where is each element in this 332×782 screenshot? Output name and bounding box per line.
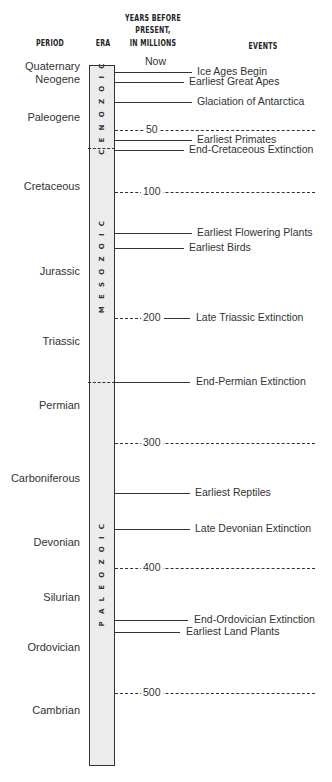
event-line [115,150,184,151]
era-separator [88,382,115,383]
period-label: Neogene [35,73,80,85]
event-label: Late Devonian Extinction [195,522,311,534]
tick-label: 400 [141,561,163,573]
tick-label: 300 [141,436,163,448]
era-separator [88,148,115,149]
event-label: Earliest Reptiles [195,486,271,498]
header-era: ERA [91,38,116,48]
tick-line [115,318,143,319]
header-years-line3: IN MILLIONS [124,38,181,48]
event-line [115,632,180,633]
event-label: End-Permian Extinction [196,375,306,387]
event-label: Earliest Land Plants [186,625,279,637]
period-label: Carboniferous [11,472,80,484]
event-line [115,102,192,103]
period-label: Cambrian [32,704,80,716]
header-period: PERIOD [34,38,67,48]
period-label: Ordovician [27,641,80,653]
tick-label: Now [143,55,168,67]
header-events: EVENTS [243,41,284,51]
era-label: P A L E O Z O I C [90,383,114,765]
tick-label: 200 [141,311,163,323]
period-label: Cretaceous [24,180,80,192]
header-years-line1: YEARS BEFORE [124,13,181,23]
event-line [115,382,190,383]
period-label: Devonian [34,536,80,548]
event-line [115,248,184,249]
era-label: M E S O Z O I C [90,149,114,383]
era-name: M E S O Z O I C [98,219,106,314]
event-line [115,72,192,73]
tick-label: 500 [141,686,163,698]
period-label: Jurassic [40,265,80,277]
event-line [164,318,190,319]
period-label: Silurian [43,591,80,603]
period-label: Quaternary [25,60,80,72]
tick-label: 50 [144,123,160,135]
period-label: Paleogene [27,111,80,123]
event-label: Late Triassic Extinction [196,311,303,323]
event-label: Earliest Great Apes [189,75,279,87]
event-label: End-Cretaceous Extinction [189,143,313,155]
event-label: Earliest Birds [189,241,251,253]
era-bar: C E N O Z O I CM E S O Z O I CP A L E O … [89,65,115,766]
event-label: Earliest Flowering Plants [197,226,313,238]
event-line [115,529,190,530]
event-line [115,82,184,83]
event-line [115,620,188,621]
event-line [115,140,192,141]
event-line [115,493,190,494]
period-label: Triassic [43,335,80,347]
era-name: C E N O Z O I C [98,61,106,155]
event-label: Glaciation of Antarctica [197,95,304,107]
event-label: End-Ordovician Extinction [194,613,315,625]
header-years-line2: PRESENT, [124,25,181,35]
tick-label: 100 [141,185,163,197]
period-label: Permian [39,399,80,411]
event-line [115,233,192,234]
era-name: P A L E O Z O I C [98,522,106,627]
era-label: C E N O Z O I C [90,66,114,149]
